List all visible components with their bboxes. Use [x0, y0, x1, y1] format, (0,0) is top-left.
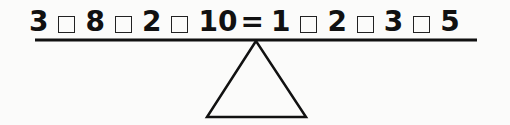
balance-scale	[0, 0, 510, 125]
fulcrum-triangle-icon	[207, 41, 306, 117]
